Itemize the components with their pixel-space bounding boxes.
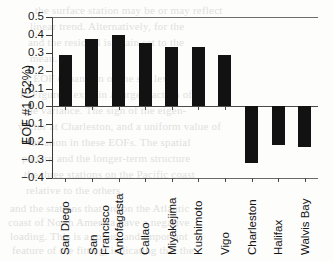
bar — [298, 106, 311, 147]
y-tick — [46, 106, 52, 107]
x-tick — [172, 178, 173, 182]
x-tick — [119, 178, 120, 182]
x-tick-label: Walvis Bay — [300, 185, 312, 255]
y-tick — [46, 35, 52, 36]
x-tick-label: Charleston — [247, 185, 259, 255]
y-tick — [46, 53, 52, 54]
x-tick — [92, 106, 93, 110]
x-tick — [225, 178, 226, 182]
x-tick — [119, 106, 120, 110]
x-tick — [145, 106, 146, 110]
y-axis-label: EOF #1 (52%) — [20, 30, 34, 180]
x-tick-label: Miyakejima — [167, 185, 179, 255]
bar — [59, 55, 72, 106]
bar — [165, 47, 178, 107]
bar — [85, 39, 98, 106]
y-tick — [46, 89, 52, 90]
figure-container: the surface station may be or may reflec… — [0, 0, 333, 261]
x-tick — [252, 178, 253, 182]
x-tick-label: Antofagasta — [114, 185, 126, 255]
x-tick-label: Callao — [140, 185, 152, 255]
y-tick — [46, 142, 52, 143]
y-tick — [46, 124, 52, 125]
bar — [112, 35, 125, 107]
x-tick — [65, 178, 66, 182]
y-tick — [46, 160, 52, 161]
x-tick — [65, 106, 66, 110]
bar — [218, 55, 231, 107]
bar — [139, 43, 152, 107]
bar — [245, 106, 258, 162]
x-tick — [225, 106, 226, 110]
x-tick — [198, 106, 199, 110]
bar — [272, 106, 285, 145]
x-tick — [172, 106, 173, 110]
x-tick-label: San Diego — [60, 185, 72, 255]
y-tick — [46, 17, 52, 18]
x-tick-label: Halifax — [273, 185, 285, 255]
x-tick — [145, 178, 146, 182]
x-tick — [92, 178, 93, 182]
y-tick — [46, 71, 52, 72]
chart-plot-area: 0.50.40.30.20.10.0−0.1−0.2−0.3−0.4 San D… — [0, 0, 333, 261]
x-tick — [198, 178, 199, 182]
y-tick-label: 0.5 — [28, 11, 44, 23]
y-tick — [46, 178, 52, 179]
x-tick — [278, 178, 279, 182]
x-tick — [305, 178, 306, 182]
x-tick-label: Kushimoto — [193, 185, 205, 255]
x-tick-label: San Francisco — [87, 185, 111, 255]
bar — [192, 47, 205, 106]
x-tick-label: Vigo — [220, 185, 232, 255]
